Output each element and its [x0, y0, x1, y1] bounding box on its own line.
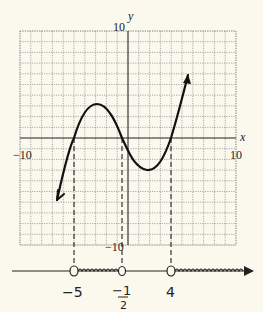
y-max-label: 10 — [113, 20, 125, 34]
point-label-neg-half-den: 2 — [120, 299, 127, 312]
point-label-4: 4 — [166, 284, 175, 300]
y-axis-label: y — [127, 9, 134, 23]
x-min-label: −10 — [13, 148, 32, 162]
open-circle-neg5 — [70, 266, 78, 276]
point-label-neg5: −5 — [62, 284, 83, 300]
graph-figure: x y 10 −10 10 −10 −5 −1 2 4 — [0, 0, 263, 312]
open-circle-4 — [167, 266, 175, 276]
root-guide-lines — [74, 138, 171, 266]
point-label-neg-half-num: −1 — [112, 283, 131, 298]
number-line-arrow-icon — [244, 266, 254, 276]
open-circle-neg-half — [119, 267, 126, 276]
x-max-label: 10 — [230, 148, 242, 162]
y-min-label: −10 — [105, 240, 124, 254]
left-arrowhead-icon — [57, 190, 64, 200]
x-axis-label: x — [239, 130, 246, 144]
